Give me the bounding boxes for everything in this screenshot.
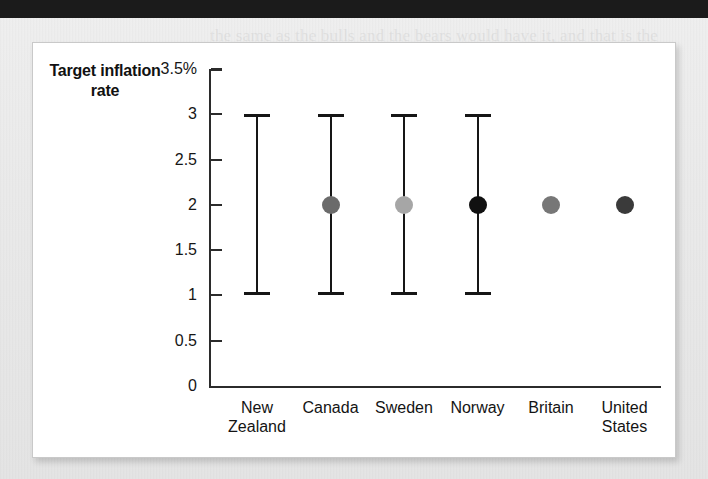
error-bar-cap-upper bbox=[391, 114, 417, 117]
error-bar bbox=[244, 114, 270, 295]
x-axis-category-label: Britain bbox=[528, 398, 573, 417]
data-point-dot bbox=[542, 196, 560, 214]
data-point-dot bbox=[616, 196, 634, 214]
y-axis-tick bbox=[211, 159, 222, 161]
y-tick-label: 0 bbox=[188, 378, 197, 394]
x-axis-line bbox=[209, 386, 661, 388]
y-tick-label: 3 bbox=[188, 106, 197, 122]
x-axis-category-label: United States bbox=[601, 398, 647, 436]
x-axis-category-label: Sweden bbox=[375, 398, 433, 417]
page-background: the same as the bulls and the bears woul… bbox=[0, 0, 708, 479]
error-bar-cap-lower bbox=[465, 292, 491, 295]
error-bar-cap-lower bbox=[391, 292, 417, 295]
y-tick-label: 0.5 bbox=[175, 333, 197, 349]
y-axis-tick bbox=[211, 294, 222, 296]
error-bar-cap-upper bbox=[318, 114, 344, 117]
y-axis-top-cap bbox=[211, 69, 222, 71]
error-bar-cap-lower bbox=[244, 292, 270, 295]
error-bar-cap-upper bbox=[244, 114, 270, 117]
y-tick-label: 2.5 bbox=[175, 152, 197, 168]
data-point-dot bbox=[322, 196, 340, 214]
x-axis-category-label: New Zealand bbox=[228, 398, 286, 436]
plot-area: 3.5%32.521.510.50 New ZealandCanadaSwede… bbox=[33, 43, 677, 459]
y-axis-tick bbox=[211, 340, 222, 342]
y-axis-tick-labels: 3.5%32.521.510.50 bbox=[129, 43, 197, 459]
x-axis-category-label: Norway bbox=[450, 398, 504, 417]
error-bar-cap-lower bbox=[318, 292, 344, 295]
chart-card: Target inflation rate 3.5%32.521.510.50 … bbox=[32, 42, 676, 458]
page-header-bar bbox=[0, 0, 708, 18]
y-axis-tick bbox=[211, 204, 222, 206]
y-tick-label: 1 bbox=[188, 287, 197, 303]
y-axis-tick bbox=[211, 249, 222, 251]
y-tick-label: 2 bbox=[188, 197, 197, 213]
y-axis-tick bbox=[211, 113, 222, 115]
data-point-dot bbox=[395, 196, 413, 214]
y-tick-label: 1.5 bbox=[175, 242, 197, 258]
error-bar-stem bbox=[256, 114, 258, 295]
error-bar-cap-upper bbox=[465, 114, 491, 117]
data-point-dot bbox=[469, 196, 487, 214]
y-tick-label: 3.5% bbox=[161, 61, 197, 77]
x-axis-category-label: Canada bbox=[302, 398, 358, 417]
